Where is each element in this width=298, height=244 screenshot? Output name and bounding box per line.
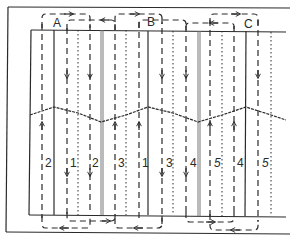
lane-number: 2 <box>45 156 52 170</box>
lane-numbers: 2 1 2 3 1 3 4 5 4 5 <box>45 156 269 170</box>
lane-number: 1 <box>142 156 149 170</box>
up-arrows <box>42 122 234 130</box>
lane-number: 2 <box>92 156 99 170</box>
lane-number: 5 <box>214 156 221 170</box>
lane-number: 4 <box>237 156 244 170</box>
label-b: B <box>147 15 155 29</box>
lane-number: 1 <box>70 156 77 170</box>
lane-number: 4 <box>190 156 197 170</box>
channel-flow-diagram: A B C 2 1 2 3 1 3 4 5 4 5 <box>0 0 298 244</box>
dotted-lanes <box>78 30 271 216</box>
label-c: C <box>244 17 253 31</box>
lane-number: 3 <box>166 156 173 170</box>
dashed-flow-lines <box>42 18 258 225</box>
lane-number: 5 <box>262 156 269 170</box>
channel-walls <box>29 30 246 216</box>
zigzag-interface <box>30 107 286 122</box>
double-walls <box>101 30 200 216</box>
label-a: A <box>53 16 61 30</box>
bottom-arrows <box>60 221 240 230</box>
lane-number: 3 <box>118 156 125 170</box>
bottom-loops <box>42 212 258 230</box>
